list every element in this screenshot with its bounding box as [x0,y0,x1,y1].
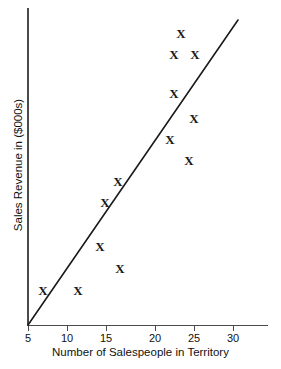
x-tick-20 [155,325,156,331]
data-point: X [169,48,178,61]
x-tick-label-30: 30 [221,332,245,344]
scatter-plot-figure: 51015202530 XXXXXXXXXXXXX Sales Revenue … [0,0,281,369]
data-point: X [73,284,82,297]
x-axis-line [27,325,268,327]
data-point: X [189,112,198,125]
x-tick-label-20: 20 [143,332,167,344]
data-point: X [95,240,104,253]
x-tick-25 [194,325,195,331]
data-point: X [100,196,109,209]
data-point: X [38,284,47,297]
x-tick-label-25: 25 [182,332,206,344]
x-axis-title: Number of Salespeople in Territory [0,346,281,358]
data-point: X [184,154,193,167]
trend-line [0,0,281,369]
y-axis-title: Sales Revenue in ($000s) [12,75,24,255]
x-tick-label-10: 10 [55,332,79,344]
data-point: X [115,262,124,275]
data-point: X [169,87,178,100]
data-point: X [190,48,199,61]
data-point: X [176,27,185,40]
x-tick-label-15: 15 [94,332,118,344]
x-tick-10 [67,325,68,331]
x-tick-label-5: 5 [16,332,40,344]
x-tick-30 [233,325,234,331]
x-tick-5 [28,325,29,331]
plot-area: 51015202530 XXXXXXXXXXXXX Sales Revenue … [0,0,281,369]
y-axis-line [27,8,29,326]
data-point: X [165,133,174,146]
x-tick-15 [106,325,107,331]
data-point: X [113,175,122,188]
